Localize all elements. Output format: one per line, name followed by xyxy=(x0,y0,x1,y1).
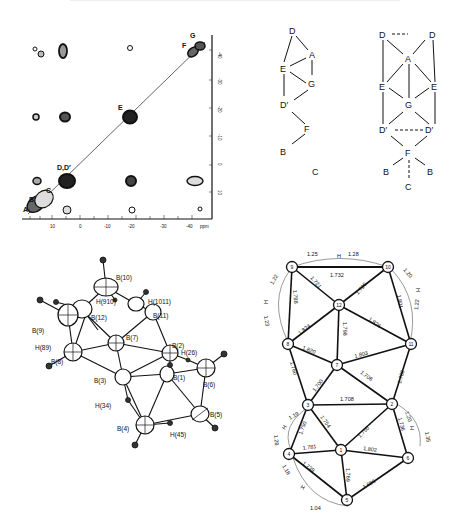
node-a: A xyxy=(405,54,411,64)
y-tick: -30 xyxy=(217,78,222,85)
x-tick: -20 xyxy=(128,224,135,229)
peak-label-dd: D,D′ xyxy=(57,164,71,172)
bond-length: 1.706 xyxy=(359,369,374,382)
node-d-left: D xyxy=(379,30,386,40)
y-tick: -40 xyxy=(217,52,222,59)
peak-label-f: F xyxy=(182,42,187,49)
bond-length: 1.802 xyxy=(363,445,377,453)
y-tick: -10 xyxy=(217,134,222,141)
node-label-3: 3 xyxy=(307,402,310,408)
bridge-h: H xyxy=(409,426,415,430)
bridge-length: 1.22 xyxy=(269,273,280,285)
atom-label: H(34) xyxy=(95,402,111,410)
bond-length: 1.781 xyxy=(302,443,316,451)
peak-label-e: E xyxy=(118,104,123,111)
bridge-length: 1.23 xyxy=(263,315,271,327)
bridge-h: H xyxy=(415,288,421,292)
bridge-h: H xyxy=(337,253,341,259)
bridge-length: 1.35 xyxy=(424,431,432,443)
node-label-7: 7 xyxy=(336,362,339,368)
x-tick: -40 xyxy=(186,224,193,229)
nmr-cosy-spectrum: 10 0 -10 -20 -30 -40 ppm -40 -30 -20 -10… xyxy=(0,0,240,232)
node-label-2: 2 xyxy=(391,401,394,407)
y-tick: 10 xyxy=(217,190,222,196)
x-unit: ppm xyxy=(200,224,209,229)
bond-length: 1.801 xyxy=(396,294,404,309)
node-label-6: 6 xyxy=(407,455,410,461)
bond-length: 1.760 xyxy=(289,361,298,376)
atom-label: H(1011) xyxy=(148,298,171,306)
y-tick: -20 xyxy=(217,106,222,113)
bond-length: 1.708 xyxy=(340,396,354,402)
ortep-molecular-structure: B(10) H(1011) H(910) B(11) B(12) B(9) H(… xyxy=(20,240,250,470)
bridge-h: H xyxy=(281,424,288,430)
peak-label-g: G xyxy=(190,32,196,39)
atom-label: B(12) xyxy=(91,314,107,322)
bridge-length: 1.25 xyxy=(307,251,318,257)
bridge-length: 1.28 xyxy=(273,435,280,446)
node-e: E xyxy=(280,64,286,74)
node-label-12: 12 xyxy=(336,302,342,308)
bridge-length: 1.04 xyxy=(310,505,321,511)
atom-label: B(10) xyxy=(116,274,132,282)
node-e-right: E xyxy=(431,82,437,92)
caption-c: C xyxy=(312,167,319,177)
node-d-prime-left: D′ xyxy=(379,125,387,135)
atom-label: B(4) xyxy=(117,425,129,433)
bridge-length: 1.19 xyxy=(288,410,300,421)
bond-length: 1.798 xyxy=(342,322,348,336)
bond-length: 1.788 xyxy=(292,290,299,304)
atom-label: B(6) xyxy=(203,381,215,389)
bond-distance-schematic: 9 10 12 8 11 7 3 2 4 1 6 5 1.732 1.721 1… xyxy=(260,240,460,517)
node-label-10: 10 xyxy=(385,264,391,270)
peak-label-a: A xyxy=(23,206,28,213)
bridge-h: H xyxy=(263,300,269,304)
bond-length: 1.788 xyxy=(396,369,405,384)
node-label-9: 9 xyxy=(291,264,294,270)
node-c: C xyxy=(405,182,412,192)
node-d-prime: D′ xyxy=(280,100,288,110)
node-f: F xyxy=(405,148,411,158)
atom-label: H(45) xyxy=(170,431,186,439)
bond-length: 1.824 xyxy=(297,323,312,336)
atom-label: B(9) xyxy=(32,327,44,335)
node-label-11: 11 xyxy=(408,341,413,347)
atom-label: H(910) xyxy=(96,298,116,306)
node-e-left: E xyxy=(379,82,385,92)
bond-length: 1.826 xyxy=(367,316,382,329)
bridge-length: 1.20 xyxy=(402,267,413,279)
atom-label: B(3) xyxy=(94,377,106,385)
connectivity-diagram-right: D D A E E G D′ D′ F B B C xyxy=(375,20,460,200)
node-g: G xyxy=(405,100,412,110)
node-label-4: 4 xyxy=(288,451,291,457)
x-tick: 10 xyxy=(50,224,56,229)
node-label-5: 5 xyxy=(346,497,349,503)
bond-length: 1.686 xyxy=(362,478,377,490)
connectivity-diagram-left: D A E G D′ F B C xyxy=(270,20,350,190)
atom-label: B(5) xyxy=(210,411,222,419)
bond-length: 1.755 xyxy=(356,425,370,439)
x-tick: -30 xyxy=(160,224,167,229)
y-tick: 0 xyxy=(217,163,222,166)
node-g: G xyxy=(308,79,315,89)
bridge-length: 1.18 xyxy=(281,464,292,476)
bond-length: 1.769 xyxy=(345,468,351,482)
bridge-length: 1.28 xyxy=(348,251,359,257)
bridge-length: 1.20 xyxy=(404,410,413,422)
bond-length: 1.732 xyxy=(330,272,344,278)
peak-label-c: C xyxy=(46,187,51,194)
bridge-h: H xyxy=(300,484,306,491)
node-b-left: B xyxy=(383,167,389,177)
peak-label-b: B xyxy=(29,196,34,203)
node-a: A xyxy=(309,50,315,60)
bond-length: 1.754 xyxy=(319,414,332,429)
node-d: D xyxy=(289,26,296,36)
atom-label: B(1) xyxy=(173,374,185,382)
x-tick: -10 xyxy=(104,224,111,229)
bridge-length: 1.22 xyxy=(413,299,420,310)
node-b-right: B xyxy=(427,167,433,177)
atom-label: B(8) xyxy=(51,358,63,366)
node-b: B xyxy=(280,147,286,157)
atom-label: H(89) xyxy=(35,344,51,352)
node-label-8: 8 xyxy=(287,341,290,347)
